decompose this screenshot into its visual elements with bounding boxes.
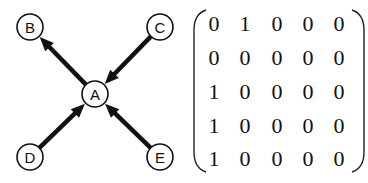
matrix-cell-r2-c4: 0 [334,79,345,104]
matrix-cell-r4-c3: 0 [303,146,314,171]
matrix-cell-r2-c2: 0 [272,79,283,104]
matrix-cell-r4-c1: 0 [240,146,251,171]
matrix-cell-r3-c4: 0 [334,113,345,138]
edge-E-to-A [112,111,150,148]
directed-graph-and-adjacency-matrix: ABCDE 0100000000100001000010000 [0,0,368,183]
node-B: B [17,14,43,40]
node-A: A [82,81,108,107]
matrix-cell-r0-c1: 1 [240,11,251,36]
node-C: C [147,14,173,40]
node-label: A [90,86,100,103]
node-label: E [155,149,165,166]
matrix-cell-r0-c0: 0 [209,11,220,36]
matrix-cell-r1-c4: 0 [334,45,345,70]
matrix-cell-r2-c1: 0 [240,79,251,104]
matrix-cell-r1-c3: 0 [303,45,314,70]
matrix-left-paren [194,10,206,172]
matrix-cell-r3-c1: 0 [240,113,251,138]
matrix-cell-r4-c4: 0 [334,146,345,171]
matrix-cell-r1-c2: 0 [272,45,283,70]
matrix-cell-r0-c4: 0 [334,11,345,36]
matrix-cell-r0-c2: 0 [272,11,283,36]
node-E: E [147,144,173,170]
matrix-cell-r2-c0: 1 [209,79,220,104]
matrix-cell-r4-c2: 0 [272,146,283,171]
matrix-cell-r2-c3: 0 [303,79,314,104]
matrix-cell-r0-c3: 0 [303,11,314,36]
edge-D-to-A [39,111,77,148]
matrix-cell-r1-c0: 0 [209,45,220,70]
matrix-cell-r1-c1: 0 [240,45,251,70]
matrix-cell-r4-c0: 1 [209,146,220,171]
matrix-cell-r3-c3: 0 [303,113,314,138]
edge-C-to-A [112,36,151,76]
matrix-right-paren [352,10,364,172]
edge-A-to-B [47,44,86,84]
matrix-cell-r3-c0: 1 [209,113,220,138]
node-label: D [25,149,36,166]
matrix-cell-r3-c2: 0 [272,113,283,138]
node-D: D [17,144,43,170]
node-label: C [155,19,166,36]
adjacency-matrix: 0100000000100001000010000 [194,10,364,172]
diagram-canvas: ABCDE 0100000000100001000010000 [0,0,368,183]
node-label: B [25,19,35,36]
